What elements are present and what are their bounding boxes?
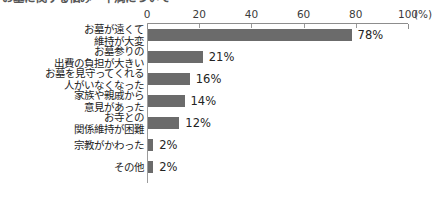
x-axis-tick-label-80: 80: [349, 8, 362, 20]
x-axis-tick-label-60: 60: [297, 8, 310, 20]
bar-row: お墓参りの 出費の負担が大きい21%: [0, 51, 441, 63]
bar-value-label: 2%: [159, 139, 177, 151]
bar: [148, 73, 190, 85]
bar-value-label: 14%: [191, 95, 217, 107]
x-axis-unit-label: (%): [414, 8, 432, 20]
bar-row: お寺との 関係維持が困難12%: [0, 117, 441, 129]
bar-category-label: その他: [0, 161, 144, 174]
bar-row: お墓を見守ってくれる 人がいなくなった16%: [0, 73, 441, 85]
bar: [148, 29, 352, 41]
bar-value-label: 12%: [185, 117, 211, 129]
bar-value-label: 21%: [209, 51, 235, 63]
bar: [148, 51, 203, 63]
x-axis-tick-label-40: 40: [245, 8, 258, 20]
bar-category-label: お寺との 関係維持が困難: [0, 111, 144, 136]
bar-row: お墓が遠くて 維持が大変78%: [0, 29, 441, 41]
bar: [148, 139, 153, 151]
bar-value-label: 16%: [196, 73, 222, 85]
x-axis-line: [147, 23, 408, 24]
bar-chart: 020406080100(%) お墓が遠くて 維持が大変78%お墓参りの 出費の…: [0, 0, 441, 199]
bar-value-label: 78%: [358, 29, 384, 41]
bar-value-label: 2%: [159, 161, 177, 173]
bar-category-label: 宗教がかわった: [0, 139, 144, 152]
x-axis-tick-40: [251, 24, 252, 28]
x-axis-tick-label-20: 20: [193, 8, 206, 20]
bar-row: 宗教がかわった2%: [0, 139, 441, 151]
bar: [148, 161, 153, 173]
x-axis-tick-label-0: 0: [144, 8, 151, 20]
bar: [148, 117, 179, 129]
x-axis-tick-80: [356, 24, 357, 28]
x-axis-tick-60: [304, 24, 305, 28]
x-axis-tick-20: [199, 24, 200, 28]
bar-row: 家族や親戚から 意見があった14%: [0, 95, 441, 107]
bar: [148, 95, 185, 107]
bar-row: その他2%: [0, 161, 441, 173]
